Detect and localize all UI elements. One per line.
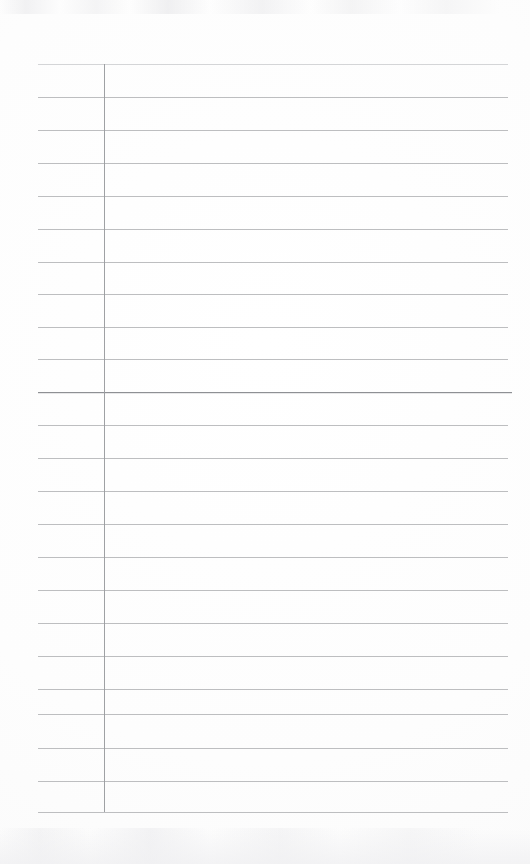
scan-artifact-top	[0, 0, 530, 14]
notebook-page	[0, 0, 530, 864]
scan-artifact-bottom	[0, 828, 530, 864]
rule-line-23	[38, 812, 508, 813]
writing-area[interactable]	[105, 64, 508, 812]
